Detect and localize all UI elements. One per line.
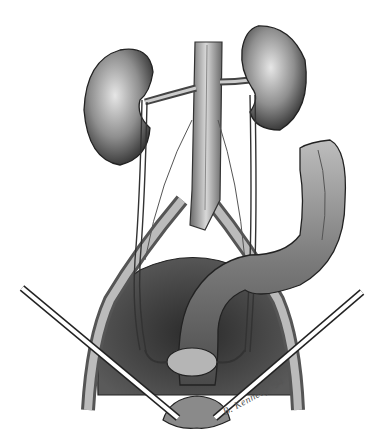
right-kidney: [84, 49, 153, 165]
left-kidney: [242, 26, 307, 130]
aorta-vena-cava: [190, 42, 222, 230]
anatomical-illustration: [0, 0, 386, 446]
